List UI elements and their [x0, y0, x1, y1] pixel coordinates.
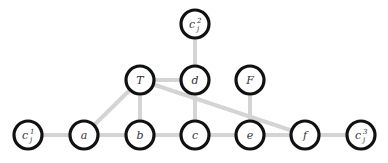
node-superscript: 2: [196, 17, 202, 25]
node-c1: c1j: [14, 121, 42, 149]
node-label: c: [355, 129, 361, 142]
node-e: e: [236, 121, 264, 149]
graph-diagram: c2jTdFc1jabcefc3j: [0, 0, 388, 163]
node-b: b: [126, 121, 154, 149]
nodes-layer: c2jTdFc1jabcefc3j: [14, 10, 375, 149]
node-label: a: [81, 129, 88, 142]
node-label: d: [191, 74, 198, 87]
node-F: F: [236, 66, 264, 94]
node-label: c: [192, 129, 198, 142]
node-label: F: [245, 74, 254, 87]
node-d: d: [181, 66, 209, 94]
node-a: a: [70, 121, 98, 149]
node-c2: c2j: [181, 10, 209, 38]
node-label: e: [247, 129, 254, 142]
node-label: c: [22, 129, 28, 142]
node-label: c: [189, 18, 195, 31]
node-superscript: 1: [30, 128, 34, 136]
node-superscript: 3: [363, 128, 368, 136]
node-c3: c3j: [347, 121, 375, 149]
edge-T-f: [140, 80, 305, 135]
node-c: c: [181, 121, 209, 149]
node-label: b: [136, 129, 143, 142]
node-T: T: [126, 66, 154, 94]
node-f: f: [291, 121, 319, 149]
